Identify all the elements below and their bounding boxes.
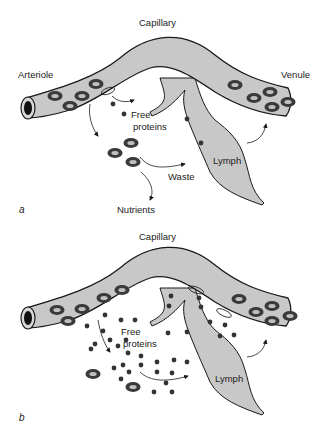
label-lymph-a: Lymph — [213, 156, 241, 166]
label-venule: Venule — [281, 70, 310, 80]
label-nutrients: Nutrients — [117, 205, 155, 215]
red-blood-cell — [265, 316, 280, 326]
panel-letter-a: a — [19, 204, 25, 215]
red-blood-cell — [228, 80, 243, 90]
red-blood-cell — [265, 301, 280, 311]
label-waste: Waste — [168, 172, 195, 182]
red-blood-cell — [75, 304, 90, 314]
leaked-cell — [108, 148, 123, 158]
panel-b — [21, 247, 298, 415]
red-blood-cell — [263, 87, 278, 97]
capillary-tube-b — [26, 247, 291, 328]
red-blood-cell — [61, 316, 76, 326]
red-blood-cell — [232, 294, 247, 304]
label-capillary-b: Capillary — [139, 232, 176, 242]
label-free-a-1: Free — [131, 110, 151, 120]
red-blood-cell — [247, 93, 262, 103]
label-free-b-2: proteins — [123, 339, 157, 349]
red-blood-cell — [48, 91, 63, 101]
red-blood-cell — [75, 91, 90, 101]
panel-letter-b: b — [19, 412, 25, 423]
leaked-cell — [126, 382, 141, 392]
leaked-cell — [126, 157, 141, 167]
red-blood-cell — [115, 285, 130, 295]
red-blood-cell — [249, 307, 264, 317]
red-blood-cell — [281, 97, 296, 107]
red-blood-cell — [283, 311, 298, 321]
red-blood-cell — [89, 79, 104, 89]
red-blood-cell — [97, 293, 112, 303]
protein-dot — [111, 102, 116, 107]
protein-dot — [122, 112, 127, 117]
leaked-cell — [86, 369, 101, 379]
label-free-a-2: proteins — [133, 122, 167, 132]
leaked-cell — [124, 138, 139, 148]
capillary-lymph-diagram — [0, 0, 328, 427]
label-free-b-1: Free — [121, 327, 141, 337]
label-capillary-a: Capillary — [139, 18, 176, 28]
label-arteriole: Arteriole — [18, 70, 53, 80]
red-blood-cell — [265, 102, 280, 112]
protein-dot — [199, 141, 204, 146]
red-blood-cell — [50, 305, 65, 315]
protein-dot — [185, 117, 190, 122]
label-lymph-b: Lymph — [215, 374, 243, 384]
red-blood-cell — [63, 101, 78, 111]
